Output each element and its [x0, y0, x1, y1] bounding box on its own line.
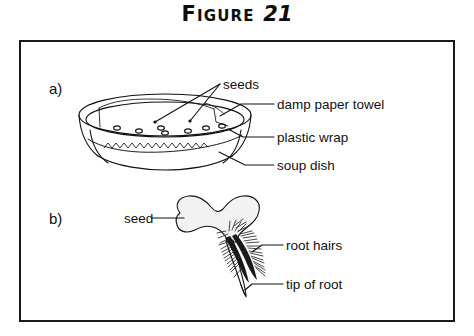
damp-paper-towel-wave	[104, 143, 208, 148]
leader-line-seeds-1	[155, 84, 220, 122]
soup-dish-drawing	[79, 84, 274, 170]
dish-bottom	[98, 156, 232, 170]
leader-line-damp-paper-towel	[220, 104, 274, 116]
germinated-seed-drawing	[152, 196, 283, 297]
figure-artwork	[0, 0, 474, 336]
leader-line-tip-of-root	[245, 284, 283, 290]
dish-rim-outer	[79, 94, 251, 136]
seed-dot	[203, 126, 210, 130]
seed-dot	[162, 131, 169, 135]
leader-dot-seeds-1	[153, 120, 156, 123]
seed-dot	[136, 129, 143, 133]
seed-dot	[185, 129, 192, 133]
plastic-wrap-crease-2	[99, 108, 100, 127]
seed-dot	[158, 126, 165, 130]
seed-dot	[114, 126, 121, 130]
plastic-wrap-crease-1	[99, 99, 214, 109]
plastic-wrap-surface	[86, 102, 244, 137]
seed-dot	[219, 124, 226, 128]
seed-body	[176, 196, 259, 242]
figure-page: Figure 21 a) b) seeds damp paper towel p…	[0, 0, 474, 336]
leader-line-plastic-wrap	[228, 129, 274, 137]
leader-dot-seeds-2	[188, 119, 191, 122]
leader-line-seeds-2	[190, 84, 220, 121]
